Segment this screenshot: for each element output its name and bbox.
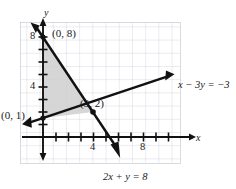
x-tick-label-4: 4 [90,142,95,153]
point-label-0-1: (0, 1) [1,110,25,121]
y-tick-label-4: 4 [30,81,35,92]
y-tick-label-8: 8 [30,31,35,42]
point-dot-0-1 [40,115,45,120]
y-axis-label: y [44,8,48,18]
point-label-0-8: (0, 8) [52,28,76,39]
point-dot-3-2 [90,109,96,115]
x-axis-label: x [196,133,200,143]
coordinate-plane-svg [0,0,236,189]
x-tick-label-8: 8 [140,142,145,153]
point-dot-0-8 [40,34,45,39]
x-axis-arrowhead [189,134,196,141]
graph-figure: y x 8 4 4 8 (0, 8) (3, 2) (0, 1) x − 3y … [0,0,236,189]
equation-label-2x-plus-y: 2x + y = 8 [103,172,148,183]
point-label-3-2: (3, 2) [80,98,104,109]
equation-label-x-minus-3y: x − 3y = −3 [178,80,230,91]
y-axis-arrowhead-up [40,18,47,26]
